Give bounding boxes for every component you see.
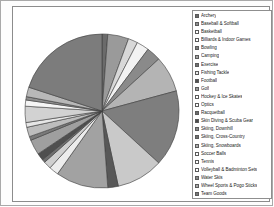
legend-item[interactable]: Soccer Balls [195, 150, 270, 158]
legend-swatch-icon [195, 87, 199, 91]
pie-chart-svg [13, 7, 193, 201]
legend-item-label: Camping [201, 52, 219, 60]
legend-item-label: Fishing Tackle [201, 69, 229, 77]
legend-swatch-icon [195, 119, 199, 123]
legend-item-label: Bowling [201, 44, 217, 52]
legend-item[interactable]: Volleyball & Badminton Sets [195, 166, 270, 174]
outer-frame: ArcheryBaseball & SoftballBasketballBill… [0, 0, 273, 206]
legend-item-label: Basketball [201, 28, 222, 36]
legend-item-label: Water Skis [201, 174, 223, 182]
legend-item-label: Skiing, Snowboards [201, 142, 241, 150]
plot-area [13, 7, 193, 201]
legend-item[interactable]: Skiing, Downhill [195, 125, 270, 133]
legend-swatch-icon [195, 192, 199, 196]
pie-chart [13, 7, 193, 201]
legend-item-label: Skiing, Downhill [201, 125, 233, 133]
pie-slice-group [25, 34, 179, 188]
legend-item-label: Optics [201, 101, 214, 109]
legend-item[interactable]: Skiing, Cross-Country [195, 133, 270, 141]
legend-item[interactable]: Exercise [195, 61, 270, 69]
legend-item[interactable]: Fishing Tackle [195, 69, 270, 77]
legend-item[interactable]: Archery [195, 12, 270, 20]
legend-item-label: Hockey & Ice Skates [201, 93, 242, 101]
legend-item[interactable]: Tennis [195, 158, 270, 166]
legend: ArcheryBaseball & SoftballBasketballBill… [192, 10, 272, 199]
legend-swatch-icon [195, 144, 199, 148]
legend-item[interactable]: Bowling [195, 44, 270, 52]
legend-swatch-icon [195, 160, 199, 164]
legend-item-label: Soccer Balls [201, 150, 226, 158]
legend-item-label: Golf [201, 85, 209, 93]
legend-item-label: Skin Diving & Scuba Gear [201, 117, 253, 125]
legend-item[interactable]: Baseball & Softball [195, 20, 270, 28]
legend-item[interactable]: Billiards & Indoor Games [195, 36, 270, 44]
legend-item[interactable]: Basketball [195, 28, 270, 36]
legend-item[interactable]: Hockey & Ice Skates [195, 93, 270, 101]
legend-item[interactable]: Football [195, 77, 270, 85]
legend-swatch-icon [195, 46, 199, 50]
legend-item[interactable]: Skin Diving & Scuba Gear [195, 117, 270, 125]
legend-item-label: Racquetball [201, 109, 225, 117]
legend-swatch-icon [195, 176, 199, 180]
legend-swatch-icon [195, 103, 199, 107]
legend-swatch-icon [195, 79, 199, 83]
legend-item-label: Team Goods [201, 190, 227, 198]
legend-item[interactable]: Skiing, Snowboards [195, 142, 270, 150]
legend-item-label: Volleyball & Badminton Sets [201, 166, 257, 174]
legend-item[interactable]: Water Skis [195, 174, 270, 182]
legend-swatch-icon [195, 55, 199, 59]
legend-swatch-icon [195, 38, 199, 42]
legend-item[interactable]: Racquetball [195, 109, 270, 117]
legend-swatch-icon [195, 184, 199, 188]
legend-swatch-icon [195, 95, 199, 99]
legend-swatch-icon [195, 63, 199, 67]
legend-item-label: Football [201, 77, 217, 85]
legend-item[interactable]: Wheel Sports & Pogo Sticks [195, 182, 270, 190]
legend-item-label: Billiards & Indoor Games [201, 36, 251, 44]
legend-item-label: Baseball & Softball [201, 20, 239, 28]
legend-swatch-icon [195, 14, 199, 18]
legend-swatch-icon [195, 30, 199, 34]
legend-swatch-icon [195, 135, 199, 139]
legend-item[interactable]: Camping [195, 52, 270, 60]
legend-swatch-icon [195, 152, 199, 156]
legend-swatch-icon [195, 111, 199, 115]
legend-item-label: Tennis [201, 158, 214, 166]
legend-item[interactable]: Golf [195, 85, 270, 93]
legend-item-label: Skiing, Cross-Country [201, 133, 245, 141]
legend-swatch-icon [195, 168, 199, 172]
legend-swatch-icon [195, 71, 199, 75]
legend-item-label: Exercise [201, 61, 218, 69]
legend-swatch-icon [195, 127, 199, 131]
legend-item[interactable]: Team Goods [195, 190, 270, 198]
legend-item-label: Wheel Sports & Pogo Sticks [201, 182, 257, 190]
legend-item[interactable]: Optics [195, 101, 270, 109]
legend-item-label: Archery [201, 12, 216, 20]
legend-swatch-icon [195, 22, 199, 26]
